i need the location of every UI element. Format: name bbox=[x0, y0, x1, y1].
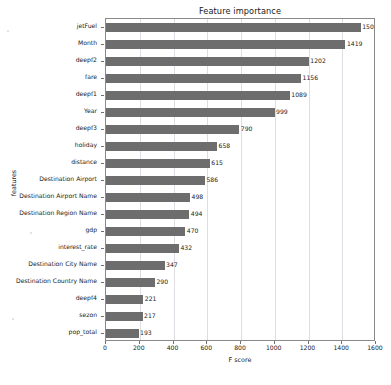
bar[interactable] bbox=[106, 125, 239, 134]
x-axis-tick-labels: 02004006008001000120014001600 bbox=[105, 341, 375, 355]
bar[interactable] bbox=[106, 261, 165, 270]
bar-row[interactable]: 432 bbox=[106, 240, 192, 257]
y-tick-sezon: sezon bbox=[0, 312, 97, 318]
image-artifact bbox=[7, 30, 9, 32]
y-tick-destination-city-name: Destination City Name bbox=[0, 261, 97, 267]
bar-row[interactable]: 658 bbox=[106, 138, 230, 155]
bar-value-label: 1202 bbox=[310, 58, 326, 64]
y-tick-distance: distance bbox=[0, 159, 97, 165]
bar[interactable] bbox=[106, 278, 155, 287]
bar-row[interactable]: 347 bbox=[106, 257, 178, 274]
bar[interactable] bbox=[106, 227, 185, 236]
y-tick-holiday: holiday bbox=[0, 142, 97, 148]
bar[interactable] bbox=[106, 74, 301, 83]
chart-title: Feature importance bbox=[105, 6, 375, 16]
bar-row[interactable]: 498 bbox=[106, 189, 203, 206]
y-tick-mark bbox=[101, 265, 104, 266]
bar[interactable] bbox=[106, 108, 275, 117]
bar[interactable] bbox=[106, 312, 143, 321]
bar-row[interactable]: 615 bbox=[106, 155, 223, 172]
bar-row[interactable]: 221 bbox=[106, 291, 156, 308]
plot-area: 1509141912021156108999979065861558649849… bbox=[105, 18, 375, 341]
bar-row[interactable]: 999 bbox=[106, 104, 288, 121]
bar-row[interactable]: 217 bbox=[106, 308, 156, 325]
bar[interactable] bbox=[106, 210, 189, 219]
y-tick-mark bbox=[101, 61, 104, 62]
y-tick-mark bbox=[101, 214, 104, 215]
bar-row[interactable]: 1419 bbox=[106, 36, 362, 53]
y-tick-mark bbox=[101, 112, 104, 113]
bar-value-label: 658 bbox=[219, 143, 231, 149]
x-tick-600: 600 bbox=[200, 345, 212, 351]
y-tick-mark bbox=[101, 95, 104, 96]
y-tick-deepf2: deepf2 bbox=[0, 57, 97, 63]
bar[interactable] bbox=[106, 295, 143, 304]
bar-row[interactable]: 1202 bbox=[106, 53, 326, 70]
bar[interactable] bbox=[106, 57, 309, 66]
bar-value-label: 217 bbox=[144, 313, 156, 319]
bar-row[interactable]: 586 bbox=[106, 172, 218, 189]
bar-value-label: 790 bbox=[241, 126, 253, 132]
x-tick-0: 0 bbox=[103, 345, 107, 351]
y-tick-mark bbox=[101, 316, 104, 317]
y-tick-mark bbox=[101, 27, 104, 28]
bar-value-label: 432 bbox=[180, 245, 192, 251]
y-tick-destination-airport-name: Destination Airport Name bbox=[0, 193, 97, 199]
bar[interactable] bbox=[106, 91, 290, 100]
x-tick-200: 200 bbox=[133, 345, 145, 351]
bar-row[interactable]: 790 bbox=[106, 121, 252, 138]
bar-value-label: 193 bbox=[140, 330, 152, 336]
bar-value-label: 1419 bbox=[347, 41, 363, 47]
bar[interactable] bbox=[106, 244, 179, 253]
bar[interactable] bbox=[106, 40, 345, 49]
y-tick-mark bbox=[101, 44, 104, 45]
bar[interactable] bbox=[106, 193, 190, 202]
bar-value-label: 290 bbox=[156, 279, 168, 285]
y-tick-mark bbox=[101, 231, 104, 232]
y-tick-deepf3: deepf3 bbox=[0, 125, 97, 131]
bar-value-label: 221 bbox=[145, 296, 157, 302]
x-tick-1600: 1600 bbox=[367, 345, 383, 351]
y-tick-destination-region-name: Destination Region Name bbox=[0, 210, 97, 216]
y-tick-mark bbox=[101, 180, 104, 181]
x-tick-1200: 1200 bbox=[300, 345, 316, 351]
y-tick-destination-country-name: Destination Country Name bbox=[0, 278, 97, 284]
bar-row[interactable]: 1509 bbox=[106, 19, 375, 36]
y-tick-jetfuel: jetFuel bbox=[0, 23, 97, 29]
x-tick-1000: 1000 bbox=[266, 345, 282, 351]
bar-value-label: 1089 bbox=[291, 92, 307, 98]
y-tick-interest-rate: interest_rate bbox=[0, 244, 97, 250]
bar-value-label: 1156 bbox=[303, 75, 319, 81]
bar-series: 1509141912021156108999979065861558649849… bbox=[106, 19, 374, 340]
bar[interactable] bbox=[106, 159, 210, 168]
y-axis-tick-labels: jetFuelMonthdeepf2faredeepf1Yeardeepf3ho… bbox=[0, 18, 101, 341]
bar[interactable] bbox=[106, 23, 361, 32]
y-tick-destination-airport: Destination Airport bbox=[0, 176, 97, 182]
y-tick-mark bbox=[101, 78, 104, 79]
bar-row[interactable]: 494 bbox=[106, 206, 203, 223]
bar-value-label: 1509 bbox=[362, 24, 375, 30]
bar-row[interactable]: 1089 bbox=[106, 87, 307, 104]
bar-row[interactable]: 470 bbox=[106, 223, 198, 240]
x-tick-400: 400 bbox=[167, 345, 179, 351]
bar[interactable] bbox=[106, 329, 139, 338]
bar[interactable] bbox=[106, 176, 205, 185]
bar-value-label: 498 bbox=[192, 194, 204, 200]
y-tick-fare: fare bbox=[0, 74, 97, 80]
y-tick-mark bbox=[101, 299, 104, 300]
y-tick-gdp: gdp bbox=[0, 227, 97, 233]
y-tick-deepf1: deepf1 bbox=[0, 91, 97, 97]
y-tick-mark bbox=[101, 146, 104, 147]
y-tick-pop-total: pop_total bbox=[0, 329, 97, 335]
bar-row[interactable]: 1156 bbox=[106, 70, 318, 87]
bar[interactable] bbox=[106, 142, 217, 151]
bar-value-label: 615 bbox=[211, 160, 223, 166]
bar-row[interactable]: 290 bbox=[106, 274, 168, 291]
y-tick-year: Year bbox=[0, 108, 97, 114]
image-artifact bbox=[30, 232, 32, 234]
y-tick-mark bbox=[101, 129, 104, 130]
x-tick-800: 800 bbox=[234, 345, 246, 351]
bar-row[interactable]: 193 bbox=[106, 325, 152, 341]
y-tick-deepf4: deepf4 bbox=[0, 295, 97, 301]
y-tick-mark bbox=[101, 248, 104, 249]
